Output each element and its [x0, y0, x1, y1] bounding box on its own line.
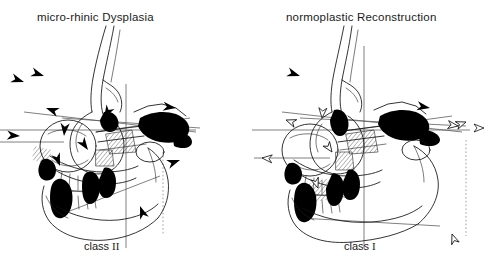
class-label-right-numeral: I [372, 240, 376, 252]
panel-left-title: micro-rhinic Dysplasia [37, 11, 154, 23]
class-label-left-numeral: II [112, 240, 120, 252]
class-label-left-prefix: class [84, 240, 110, 252]
class-label-right-prefix: class [344, 240, 370, 252]
panel-right-title: normoplastic Reconstruction [286, 11, 437, 23]
class-label-left: classII [84, 240, 120, 252]
cephalometric-comparison-figure: micro-rhinic Dysplasia [0, 0, 492, 264]
class-label-right: classI [344, 240, 376, 252]
